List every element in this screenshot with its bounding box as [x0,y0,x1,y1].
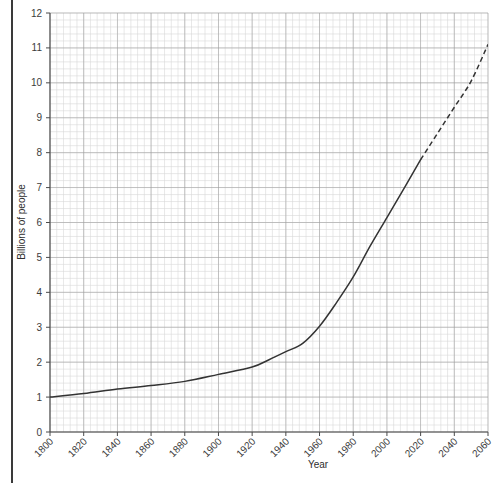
y-axis-tick-labels: 0123456789101112 [31,8,43,438]
y-tick-label: 6 [36,217,42,228]
y-axis-ticks [46,13,50,432]
y-tick-label: 4 [36,287,42,298]
x-tick-label: 1960 [301,435,325,459]
x-tick-label: 1860 [133,435,157,459]
y-tick-label: 1 [36,392,42,403]
y-tick-label: 12 [31,8,43,19]
x-tick-label: 2020 [403,435,427,459]
y-tick-label: 5 [36,252,42,263]
x-tick-label: 1940 [268,435,292,459]
x-tick-label: 1920 [234,435,258,459]
x-tick-label: 1880 [167,435,191,459]
x-axis-tick-labels: 1800182018401860188019001920194019601980… [32,435,494,459]
x-tick-label: 2040 [436,435,460,459]
x-tick-label: 1980 [335,435,359,459]
y-tick-label: 7 [36,182,42,193]
y-tick-label: 10 [31,77,43,88]
y-tick-label: 8 [36,147,42,158]
y-tick-label: 11 [32,42,43,53]
x-tick-label: 1800 [32,435,56,459]
x-tick-label: 1840 [99,435,123,459]
x-axis-title: Year [308,459,329,470]
x-tick-label: 2060 [470,435,494,459]
chart-canvas: 0123456789101112 18001820184018601880190… [0,0,500,483]
y-tick-label: 2 [36,357,42,368]
y-axis-title: Billions of people [16,184,27,260]
y-tick-label: 0 [36,427,42,438]
y-tick-label: 3 [36,322,42,333]
y-tick-label: 9 [36,112,42,123]
x-axis-ticks [50,432,488,436]
population-chart: 0123456789101112 18001820184018601880190… [0,0,500,483]
x-tick-label: 2000 [369,435,393,459]
x-tick-label: 1900 [200,435,224,459]
x-tick-label: 1820 [66,435,90,459]
